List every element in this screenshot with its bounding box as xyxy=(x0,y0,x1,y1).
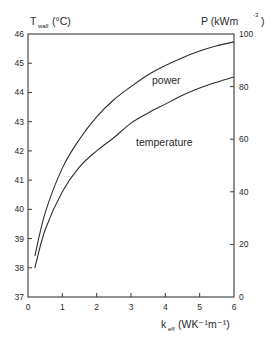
right-axis-title: P (kWm xyxy=(201,15,238,27)
left-axis-title: T xyxy=(30,15,37,27)
x-axis-title-subscript: eff xyxy=(168,326,175,332)
x-tick-label: 2 xyxy=(94,302,99,312)
chart: 012345637383940414243444546020406080100p… xyxy=(0,0,272,350)
left-y-tick-label: 46 xyxy=(15,29,25,39)
right-y-tick-label: 20 xyxy=(239,239,249,249)
right-y-tick-label: 0 xyxy=(239,292,244,302)
series-label-power: power xyxy=(152,74,181,86)
plot-area: 012345637383940414243444546020406080100p… xyxy=(15,12,265,332)
right-y-tick-label: 60 xyxy=(239,134,249,144)
x-axis-title-unit: (WK⁻¹m⁻¹) xyxy=(178,318,230,330)
plot-frame xyxy=(28,34,234,297)
x-axis-title: k xyxy=(161,318,167,330)
x-tick-label: 4 xyxy=(163,302,168,312)
left-y-tick-label: 38 xyxy=(15,263,25,273)
left-axis-title-unit: (°C) xyxy=(52,15,71,27)
left-y-tick-label: 39 xyxy=(15,234,25,244)
left-y-tick-label: 45 xyxy=(15,58,25,68)
right-y-tick-label: 80 xyxy=(239,82,249,92)
x-tick-label: 0 xyxy=(26,302,31,312)
left-axis-title-subscript: wall xyxy=(37,23,48,29)
series-label-temperature: temperature xyxy=(136,136,193,148)
right-axis-title-exponent: -3 xyxy=(253,12,259,18)
left-y-tick-label: 41 xyxy=(15,175,25,185)
x-tick-label: 3 xyxy=(129,302,134,312)
x-tick-label: 1 xyxy=(60,302,65,312)
curve-temperature xyxy=(35,77,234,268)
left-y-tick-label: 42 xyxy=(15,146,25,156)
left-y-tick-label: 44 xyxy=(15,87,25,97)
right-axis-title-close: ) xyxy=(261,15,265,27)
left-y-tick-label: 43 xyxy=(15,117,25,127)
x-tick-label: 5 xyxy=(197,302,202,312)
right-y-tick-label: 100 xyxy=(239,29,253,39)
curve-power xyxy=(35,42,234,256)
left-y-tick-label: 37 xyxy=(15,292,25,302)
left-y-tick-label: 40 xyxy=(15,204,25,214)
right-y-tick-label: 40 xyxy=(239,187,249,197)
x-tick-label: 6 xyxy=(232,302,237,312)
